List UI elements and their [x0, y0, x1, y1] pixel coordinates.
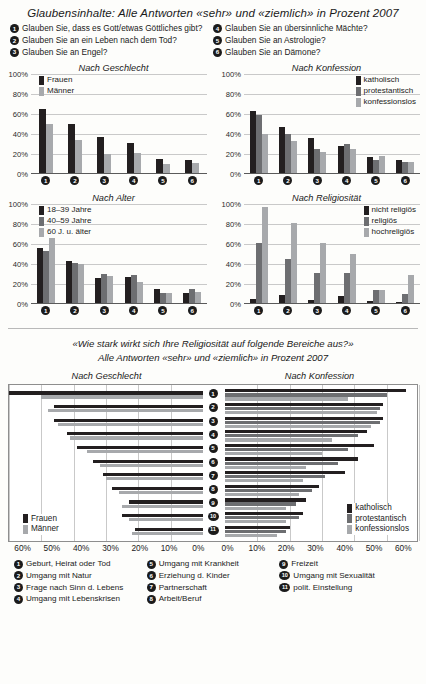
diverging-bar-right: [225, 479, 303, 482]
diverging-bar-right: [225, 530, 286, 533]
chart-title: Nach Religiosität: [227, 192, 426, 204]
x-tick-label: 60%: [389, 543, 418, 553]
x-tick-label: 30%: [96, 543, 125, 553]
chart-2: Nach Konfession0%20%40%60%80%100%katholi…: [213, 62, 426, 192]
legend-swatch: [364, 217, 369, 226]
legend-entry: Frauen: [23, 514, 59, 525]
legend-label: protestantisch: [364, 86, 414, 96]
diverging-category: 6: [209, 455, 218, 469]
plot-area: 0%20%40%60%80%100%katholischprotestantis…: [213, 74, 420, 192]
x-axis-labels: 123456: [31, 176, 207, 185]
diverging-category: 8: [209, 483, 218, 497]
y-tick-label: 40%: [226, 130, 241, 139]
y-tick-label: 100%: [222, 70, 241, 79]
x-tick-label: 40%: [67, 543, 96, 553]
diverging-bar-left: [77, 446, 203, 449]
legend-label: Männer: [47, 86, 74, 96]
diverging-bar-right: [225, 407, 380, 410]
bottom-legend-text: Umgang mit Krankheit: [159, 558, 239, 570]
bar-group: [119, 74, 148, 173]
chart-legend: FrauenMänner: [39, 75, 74, 96]
y-tick-label: 40%: [13, 260, 28, 269]
chart-title: Nach Konfession: [227, 62, 426, 74]
legend-swatch: [356, 98, 361, 107]
bottom-item-legend: 1Geburt, Heirat oder Tod2Umgang mit Natu…: [0, 553, 426, 605]
diverging-chart-titles: Nach Geschlecht Nach Konfession: [0, 371, 426, 381]
bar: [78, 264, 84, 303]
x-tick: 4: [119, 176, 148, 185]
legend-entry: Frauen: [39, 75, 74, 85]
bullet-3-icon: 3: [14, 583, 23, 592]
diverging-bar-right: [225, 389, 406, 392]
diverging-bar-right: [225, 421, 380, 424]
bullet-10-icon: 10: [279, 571, 290, 580]
bottom-legend-item: 3Frage nach Sinn d. Lebens: [14, 582, 147, 594]
bottom-legend-text: Partnerschaft: [159, 582, 207, 594]
legend-label: 18–39 Jahre: [47, 205, 91, 215]
diverging-category: 4: [209, 428, 218, 442]
bullet-8-icon: 8: [147, 595, 156, 604]
bottom-legend-text: Erziehung d. Kinder: [159, 570, 230, 582]
question-text: Glauben Sie an Dämone?: [225, 47, 320, 59]
legend-entry: katholisch: [347, 503, 409, 514]
bar: [291, 223, 297, 303]
legend-label: konfessionslos: [364, 97, 416, 107]
legend-swatch: [347, 525, 352, 534]
diverging-category: 7: [209, 469, 218, 483]
legend-entry: religiös: [364, 216, 416, 226]
bullet-4-icon: 4: [14, 595, 23, 604]
diverging-bar-left: [112, 487, 203, 490]
section-divider: [8, 328, 418, 329]
diverging-category: 10: [208, 510, 219, 524]
bar: [350, 254, 356, 303]
diverging-bar-right: [225, 502, 296, 505]
bullet-1-icon: 1: [254, 306, 263, 315]
diverging-bar-left: [67, 432, 203, 435]
diverging-bar-left: [70, 436, 203, 439]
bullet-3-icon: 3: [313, 176, 322, 185]
bullet-4-icon: 4: [209, 430, 218, 439]
y-tick-label: 60%: [13, 110, 28, 119]
bar-group: [148, 204, 177, 303]
bar: [39, 109, 46, 173]
bottom-legend-item: 11polit. Einstellung: [279, 582, 412, 594]
x-tick: 6: [178, 176, 207, 185]
diverging-bar-right: [225, 417, 383, 420]
diverging-bar-right: [225, 425, 371, 428]
x-tick: 1: [244, 176, 273, 185]
diverging-bar-right: [225, 444, 374, 447]
diverging-category: 9: [209, 496, 218, 510]
legend-entry: protestantisch: [347, 514, 409, 525]
question-item: 2Glauben Sie an ein Leben nach dem Tod?: [10, 35, 213, 47]
diverging-bar-left: [93, 460, 203, 463]
legend-entry: katholisch: [356, 75, 416, 85]
x-tick-label: 60%: [8, 543, 37, 553]
bottom-legend-text: Frage nach Sinn d. Lebens: [26, 582, 123, 594]
x-tick: 5: [361, 306, 390, 315]
x-tick-label: 0%: [184, 543, 213, 553]
bottom-title-line2: Alle Antworten «sehr» und «ziemlich» in …: [0, 351, 426, 365]
x-tick-label: 50%: [359, 543, 388, 553]
diverging-bar-left: [122, 505, 203, 508]
chart-4: Nach Religiosität0%20%40%60%80%100%nicht…: [213, 192, 426, 322]
legend-label: 60 J. u. älter: [47, 227, 91, 237]
bar: [68, 124, 75, 173]
bottom-legend-text: Geburt, Heirat oder Tod: [26, 558, 110, 570]
x-tick-label: 20%: [272, 543, 301, 553]
x-tick: 4: [332, 176, 361, 185]
bar: [97, 137, 104, 173]
bullet-5-icon: 5: [158, 306, 167, 315]
bullet-5-icon: 5: [213, 36, 222, 45]
y-tick-label: 100%: [222, 200, 241, 209]
x-tick: 5: [148, 306, 177, 315]
bullet-7-icon: 7: [147, 583, 156, 592]
bullet-10-icon: 10: [208, 512, 219, 521]
legend-entry: hochreligiös: [364, 227, 416, 237]
bottom-legend-text: Freizeit: [291, 558, 318, 570]
question-text: Glauben Sie, dass es Gott/etwas Göttlich…: [22, 23, 202, 35]
legend-label: 40–59 Jahre: [47, 216, 91, 226]
bullet-6-icon: 6: [147, 571, 156, 580]
x-tick: 2: [273, 306, 302, 315]
bullet-1-icon: 1: [41, 176, 50, 185]
diverging-bar-right: [225, 397, 348, 400]
